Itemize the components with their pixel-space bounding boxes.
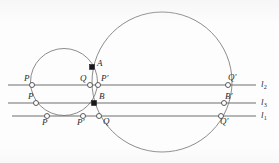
point-label-P-l1: P	[42, 118, 48, 127]
point-label-Pp-l1: P′	[77, 118, 84, 127]
point-marker-Q-l1	[97, 114, 102, 119]
point-marker-Pp-l2	[96, 83, 101, 88]
point-label-A: A	[97, 59, 103, 68]
figure-canvas	[0, 0, 279, 163]
point-label-Qp-l2: Q′	[228, 73, 236, 82]
point-marker-Bp-l3	[222, 101, 227, 106]
point-label-Q-l1: Q	[103, 117, 110, 126]
point-label-Bp-l3: B′	[225, 92, 232, 101]
point-label-P-l2: P	[24, 74, 30, 83]
point-label-Pp-l2: P′	[101, 74, 108, 83]
point-marker-P-l2	[30, 83, 35, 88]
line-label-l3: l3	[261, 98, 267, 108]
small-circle	[31, 49, 98, 116]
geometry-diagram: l2l3l1ABPQP′Q′PB′PP′QQ′	[0, 0, 279, 163]
point-label-P-l3: P	[28, 92, 34, 101]
line-label-l2: l2	[261, 80, 267, 90]
circles-group	[31, 12, 233, 152]
point-marker-B	[92, 101, 97, 106]
point-label-B: B	[99, 92, 105, 101]
point-marker-P-l3	[34, 101, 39, 106]
point-label-Q-l2: Q	[80, 74, 87, 83]
point-marker-Qp-l2	[226, 83, 231, 88]
lines-group	[8, 85, 256, 116]
line-label-l1: l1	[261, 111, 267, 121]
large-circle	[92, 12, 232, 152]
point-marker-A	[90, 65, 95, 70]
point-label-Qp-l1: Q′	[220, 117, 228, 126]
point-marker-Q-l2	[88, 83, 93, 88]
points-group	[30, 65, 231, 119]
